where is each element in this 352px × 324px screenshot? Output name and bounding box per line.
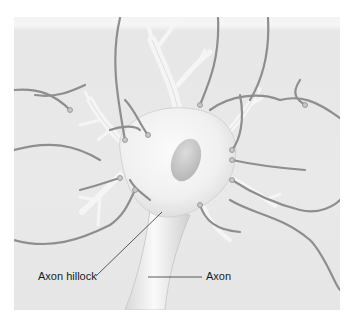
label-axon-hillock: Axon hillock [38,270,97,282]
axon-trunk [125,210,190,310]
label-axon: Axon [206,270,231,282]
